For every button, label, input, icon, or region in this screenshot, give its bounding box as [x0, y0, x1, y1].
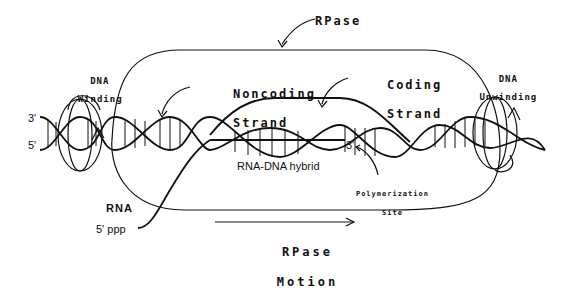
- rpase-motion-label: RPase Motion: [232, 230, 342, 290]
- rpase-label: RPase: [315, 15, 361, 27]
- noncoding-strand-label: Noncoding Strand: [196, 73, 316, 145]
- three-prime-rna-label: 3': [346, 140, 354, 151]
- polymerization-site-label: Polymerization Site: [327, 180, 437, 229]
- coding-pointer: [322, 78, 348, 104]
- dna-unwinding-label: DNA Unwinding: [448, 66, 543, 111]
- rna-transcript: [138, 140, 345, 228]
- five-prime-left-label: 5': [28, 140, 36, 151]
- dna-winding-label: DNA Winding: [52, 68, 122, 113]
- noncoding-pointer: [162, 87, 190, 114]
- rpase-pointer: [282, 19, 315, 44]
- five-ppp-label: 5' ppp: [96, 224, 126, 235]
- rna-dna-hybrid-label: RNA-DNA hybrid: [237, 161, 320, 172]
- coding-strand-label: Coding Strand: [350, 64, 442, 136]
- rna-label: RNA: [106, 203, 133, 214]
- three-prime-left-label: 3': [28, 113, 36, 124]
